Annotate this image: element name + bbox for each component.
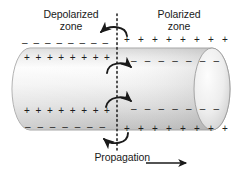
propagation-label: Propagation bbox=[60, 152, 150, 164]
axon-cylinder bbox=[12, 48, 230, 130]
diagram-canvas: – – – – – – – – + + + + + + + + + + + + … bbox=[0, 0, 248, 175]
depolarized-zone-label: Depolarized zone bbox=[28, 9, 114, 32]
outer-bottom-current-arrow bbox=[104, 133, 128, 143]
polarized-zone-label: Polarized zone bbox=[136, 9, 222, 32]
cylinder-end-cap bbox=[194, 48, 230, 130]
